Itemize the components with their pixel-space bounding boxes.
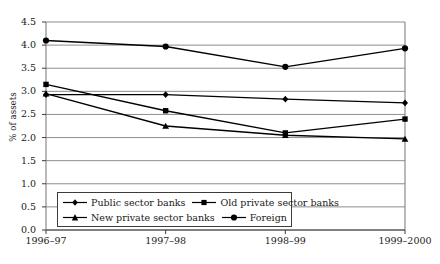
line-chart: % of assets 0.00.51.01.52.02.53.03.54.04…	[0, 0, 440, 264]
legend-row: New private sector banks Foreign	[61, 210, 288, 225]
circle-marker-icon	[221, 212, 247, 223]
data-point-marker	[402, 45, 408, 51]
data-point-marker	[43, 37, 49, 43]
series-lines	[46, 40, 405, 138]
legend-entry-public-sector-banks: Public sector banks	[62, 197, 185, 208]
series-markers	[43, 37, 409, 141]
diamond-marker-icon	[62, 197, 88, 208]
series-line	[46, 40, 405, 66]
data-point-marker	[402, 99, 408, 106]
data-point-marker	[282, 96, 288, 103]
data-point-marker	[163, 108, 168, 113]
series-line	[46, 94, 405, 139]
legend-entry-new-private-sector-banks: New private sector banks	[62, 212, 215, 223]
legend-label: Old private sector banks	[217, 198, 339, 208]
legend-label: Public sector banks	[88, 198, 185, 208]
data-point-marker	[43, 82, 48, 87]
data-point-marker	[163, 43, 169, 49]
legend-label: New private sector banks	[88, 213, 215, 223]
triangle-marker-icon	[62, 212, 88, 223]
legend: Public sector banks Old private sector b…	[57, 192, 292, 227]
legend-entry-foreign: Foreign	[221, 212, 287, 223]
legend-label: Foreign	[247, 213, 287, 223]
square-marker-icon	[191, 197, 217, 208]
legend-row: Public sector banks Old private sector b…	[61, 195, 288, 210]
data-point-marker	[402, 116, 407, 121]
data-point-marker	[163, 91, 169, 98]
legend-entry-old-private-sector-banks: Old private sector banks	[191, 197, 339, 208]
data-point-marker	[282, 64, 288, 70]
